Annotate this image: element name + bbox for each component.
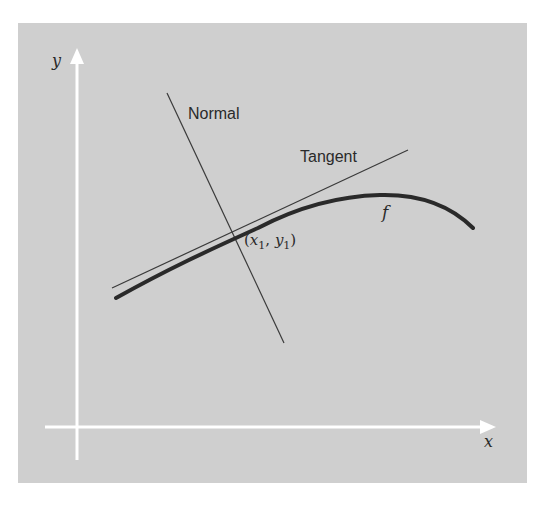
background-panel xyxy=(18,23,527,483)
point-y-sub: 1 xyxy=(283,239,290,252)
normal-label: Normal xyxy=(188,105,240,122)
x-axis-label: x xyxy=(484,432,493,451)
tangent-label: Tangent xyxy=(300,148,357,165)
y-axis-label: y xyxy=(51,51,62,70)
point-x-sub: 1 xyxy=(258,239,265,252)
tangent-normal-diagram: y x Normal Tangent f (x1, y1) xyxy=(0,0,542,507)
